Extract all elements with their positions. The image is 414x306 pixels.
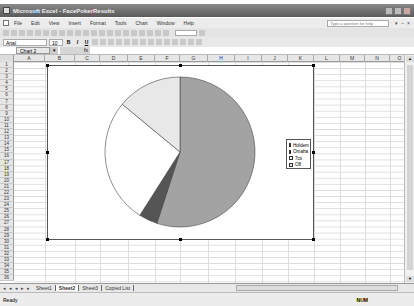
column-header-a[interactable]: A (14, 55, 45, 62)
menu-view[interactable]: View (49, 20, 60, 26)
resize-handle[interactable] (46, 151, 49, 154)
fx-button[interactable]: fx (60, 47, 90, 54)
scroll-down-arrow[interactable]: ▼ (406, 276, 414, 282)
autosum-icon[interactable] (131, 30, 137, 36)
save-icon[interactable] (19, 30, 25, 36)
doc-minimize-button[interactable]: ▾ (395, 20, 398, 26)
align-left-icon[interactable] (92, 39, 98, 45)
column-header-h[interactable]: H (208, 55, 235, 62)
increase-indent-icon[interactable] (172, 39, 178, 45)
doc-restore-button[interactable]: – (401, 20, 404, 26)
column-header-g[interactable]: G (180, 55, 208, 62)
redo-icon[interactable] (115, 30, 121, 36)
merge-center-icon[interactable] (116, 39, 122, 45)
cut-icon[interactable] (75, 30, 81, 36)
tab-sheet3[interactable]: Sheet3 (79, 285, 102, 291)
currency-icon[interactable] (124, 39, 130, 45)
menu-edit[interactable]: Edit (31, 20, 40, 26)
undo-icon[interactable] (107, 30, 113, 36)
decrease-indent-icon[interactable] (164, 39, 170, 45)
column-header-n[interactable]: N (365, 55, 390, 62)
comma-icon[interactable] (140, 39, 146, 45)
resize-handle[interactable] (179, 64, 182, 67)
menu-chart[interactable]: Chart (135, 20, 147, 26)
column-header-o[interactable]: O (390, 55, 404, 62)
tab-copied-list[interactable]: Copied List (102, 285, 134, 291)
doc-close-button[interactable]: × (407, 20, 410, 26)
maximize-button[interactable] (394, 7, 402, 15)
bold-button[interactable]: B (65, 39, 72, 45)
column-header-e[interactable]: E (128, 55, 155, 62)
italic-button[interactable]: I (74, 39, 81, 45)
increase-decimal-icon[interactable] (148, 39, 154, 45)
menu-tools[interactable]: Tools (115, 20, 127, 26)
resize-handle[interactable] (312, 238, 315, 241)
name-box[interactable]: Chart 2 (16, 47, 50, 54)
sort-desc-icon[interactable] (147, 30, 153, 36)
menu-format[interactable]: Format (90, 20, 106, 26)
column-header-j[interactable]: J (262, 55, 288, 62)
open-icon[interactable] (11, 30, 17, 36)
borders-icon[interactable] (180, 39, 186, 45)
menu-help[interactable]: Help (184, 20, 194, 26)
sheet-nav-arrows[interactable]: ◂◂◂▸▸ (3, 285, 33, 291)
column-header-b[interactable]: B (45, 55, 75, 62)
zoom-select[interactable] (175, 30, 197, 36)
email-icon[interactable] (35, 30, 41, 36)
percent-icon[interactable] (132, 39, 138, 45)
column-header-l[interactable]: L (314, 55, 340, 62)
column-header-f[interactable]: F (155, 55, 180, 62)
font-name-select[interactable]: Arial (3, 39, 47, 46)
help-search-input[interactable]: Type a question for help (327, 20, 389, 27)
menu-window[interactable]: Window (157, 20, 175, 26)
spelling-icon[interactable] (59, 30, 65, 36)
hyperlink-icon[interactable] (123, 30, 129, 36)
name-box-dropdown[interactable]: ▾ (50, 47, 58, 54)
chart-wizard-icon[interactable] (155, 30, 161, 36)
column-header-d[interactable]: D (100, 55, 128, 62)
workbook-icon[interactable] (3, 20, 9, 26)
column-header-k[interactable]: K (288, 55, 314, 62)
drawing-icon[interactable] (163, 30, 169, 36)
research-icon[interactable] (67, 30, 73, 36)
vertical-scroll-thumb[interactable] (407, 65, 413, 270)
resize-handle[interactable] (312, 151, 315, 154)
font-color-icon[interactable] (196, 39, 202, 45)
close-button[interactable] (403, 7, 411, 15)
font-size-select[interactable]: 10 (49, 39, 63, 46)
tab-sheet2[interactable]: Sheet2 (56, 285, 79, 291)
print-preview-icon[interactable] (51, 30, 57, 36)
legend-item-o8[interactable]: O8 (289, 162, 308, 169)
pie-chart-object[interactable]: HoldemOmaha7csO8 (47, 65, 314, 240)
minimize-button[interactable] (385, 7, 393, 15)
chart-legend[interactable]: HoldemOmaha7csO8 (286, 139, 311, 169)
format-painter-icon[interactable] (99, 30, 105, 36)
scroll-up-arrow[interactable]: ▲ (406, 56, 414, 62)
menu-file[interactable]: File (14, 20, 22, 26)
underline-button[interactable]: U (83, 39, 90, 45)
paste-icon[interactable] (91, 30, 97, 36)
decrease-decimal-icon[interactable] (156, 39, 162, 45)
resize-handle[interactable] (46, 238, 49, 241)
pie-chart[interactable] (48, 66, 315, 241)
column-header-m[interactable]: M (340, 55, 365, 62)
resize-handle[interactable] (46, 64, 49, 67)
column-header-i[interactable]: I (235, 55, 262, 62)
new-icon[interactable] (3, 30, 9, 36)
menu-insert[interactable]: Insert (68, 20, 81, 26)
print-icon[interactable] (43, 30, 49, 36)
vertical-scrollbar[interactable]: ▲ ▼ (404, 55, 414, 283)
resize-handle[interactable] (312, 64, 315, 67)
permission-icon[interactable] (27, 30, 33, 36)
copy-icon[interactable] (83, 30, 89, 36)
select-all-corner[interactable] (0, 55, 14, 62)
tab-sheet1[interactable]: Sheet1 (33, 285, 56, 291)
help-icon[interactable] (199, 30, 205, 36)
sort-asc-icon[interactable] (139, 30, 145, 36)
align-right-icon[interactable] (108, 39, 114, 45)
resize-handle[interactable] (179, 238, 182, 241)
horizontal-scrollbar[interactable] (236, 285, 398, 291)
row-header[interactable]: 36 (0, 275, 14, 281)
column-header-c[interactable]: C (75, 55, 100, 62)
fill-color-icon[interactable] (188, 39, 194, 45)
